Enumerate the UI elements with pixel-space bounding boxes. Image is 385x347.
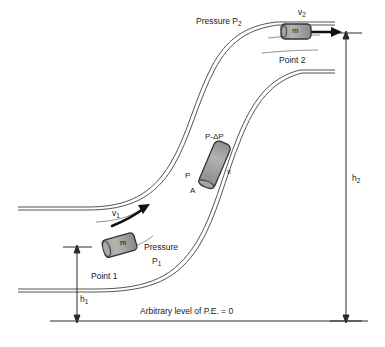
point-1-label: Point 1 [91, 272, 117, 281]
baseline-label: Arbitrary level of P.E. = 0 [140, 307, 233, 316]
pressure-1-label: Pressure [144, 243, 178, 252]
pipe-wall-lower [18, 70, 335, 292]
pressure-2-label: Pressure P2 [196, 17, 242, 26]
diagram-canvas [0, 0, 385, 347]
point-2-label: Point 2 [279, 56, 305, 65]
bernoulli-pipe-diagram: Pressure P2 v2 Point 2 P-ΔP P A x v1 Pre… [0, 0, 385, 347]
fluid-pressure-element [197, 139, 231, 190]
height-2-label: h2 [352, 174, 360, 183]
pipe-wall-upper [18, 22, 335, 210]
pressure-element-top-label: P-ΔP [205, 133, 224, 141]
displacement-label: x [227, 168, 231, 176]
velocity-2-label: v2 [298, 8, 306, 17]
height-1-dimension [63, 245, 92, 323]
velocity-1-label: v1 [112, 209, 120, 218]
pressure-1-sublabel: P1 [152, 257, 161, 266]
height-1-label: h1 [80, 295, 88, 304]
mass-1-label: m [120, 239, 126, 247]
mass-2-label: m [292, 27, 298, 35]
pressure-element-bottom-label: P [185, 172, 190, 180]
area-label: A [190, 187, 195, 195]
